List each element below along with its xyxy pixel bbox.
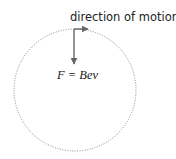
direction-of-motion-label: direction of motion bbox=[70, 10, 176, 24]
orbit-circle bbox=[14, 29, 136, 151]
force-equation-label: F = Bev bbox=[56, 68, 99, 82]
circular-motion-diagram: direction of motion F = Bev bbox=[0, 0, 176, 159]
